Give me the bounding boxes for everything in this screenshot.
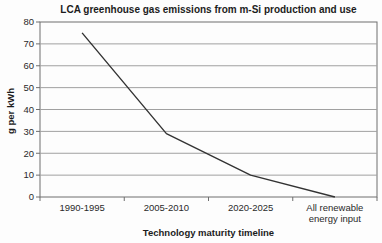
lca-emissions-chart: LCA greenhouse gas emissions from m-Si p… (0, 0, 382, 243)
y-tick-label: 0 (29, 191, 34, 202)
gridlines (40, 44, 377, 175)
emissions-line (82, 33, 335, 197)
chart-title: LCA greenhouse gas emissions from m-Si p… (60, 4, 357, 15)
x-category-label: 2005-2010 (144, 202, 189, 213)
y-tick-label: 80 (23, 16, 34, 27)
x-category-label: 2020-2025 (228, 202, 273, 213)
y-axis-title: g per kWh (5, 88, 16, 134)
x-category-label: All renewableenergy input (306, 202, 363, 224)
y-axis-ticks (36, 22, 40, 197)
y-tick-label: 30 (23, 126, 34, 137)
y-tick-label: 40 (23, 104, 34, 115)
y-tick-label: 10 (23, 169, 34, 180)
emissions-line-series (82, 33, 335, 197)
x-axis-title: Technology maturity timeline (143, 227, 274, 238)
y-tick-label: 20 (23, 148, 34, 159)
y-tick-label: 50 (23, 82, 34, 93)
x-axis-ticks (40, 197, 377, 201)
y-axis-tick-labels: 01020304050607080 (23, 16, 34, 202)
y-tick-label: 70 (23, 38, 34, 49)
x-axis-category-labels: 1990-19952005-20102020-2025All renewable… (59, 202, 363, 224)
y-tick-label: 60 (23, 60, 34, 71)
chart-canvas: LCA greenhouse gas emissions from m-Si p… (0, 0, 382, 243)
x-category-label: 1990-1995 (59, 202, 104, 213)
